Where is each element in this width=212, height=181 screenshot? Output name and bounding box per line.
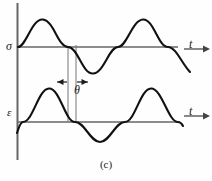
time-axis-label-top: t	[189, 38, 192, 50]
strain-wave	[17, 88, 183, 142]
phase-angle-arrow	[57, 79, 88, 85]
strain-axis-label: ε	[7, 107, 11, 118]
figure-caption: (c)	[0, 158, 212, 170]
time-axis-label-bottom: t	[189, 105, 192, 117]
figure-canvas	[0, 0, 212, 181]
time-arrow-top	[184, 46, 210, 53]
stress-axis-label: σ	[6, 40, 12, 52]
stress-strain-phase-figure: σ ε θ t t (c)	[0, 0, 212, 181]
phase-angle-label: θ	[74, 84, 80, 96]
time-arrow-bottom	[184, 113, 210, 120]
